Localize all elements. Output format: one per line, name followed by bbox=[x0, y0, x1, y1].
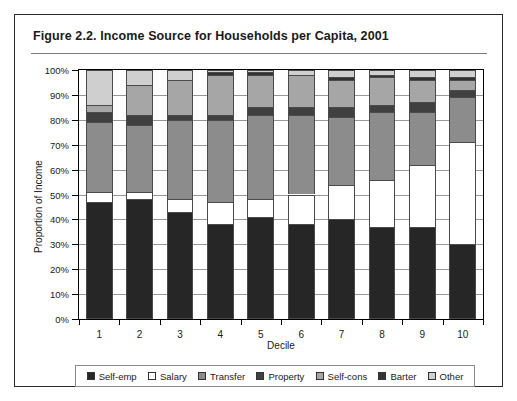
y-tick-label: 60% bbox=[50, 164, 69, 175]
bar-segment bbox=[247, 70, 274, 72]
bar-stack bbox=[288, 70, 315, 319]
bar-segment bbox=[126, 85, 153, 115]
x-tick-mark bbox=[281, 320, 282, 325]
y-tick-label: 40% bbox=[50, 214, 69, 225]
bar-stack bbox=[328, 70, 355, 319]
bar-segment bbox=[449, 90, 476, 97]
bar-segment bbox=[369, 180, 396, 227]
bar-segment bbox=[369, 70, 396, 75]
x-axis: 12345678910 bbox=[78, 320, 484, 342]
legend-item-label: Property bbox=[268, 371, 304, 382]
bar-segment bbox=[449, 97, 476, 142]
bar-segment bbox=[449, 80, 476, 90]
legend-item-label: Self-cons bbox=[328, 371, 368, 382]
x-tick-label: 9 bbox=[420, 329, 426, 340]
x-tick-label: 8 bbox=[379, 329, 385, 340]
bar-segment bbox=[328, 80, 355, 107]
bar-segment bbox=[207, 70, 234, 72]
bar-segment bbox=[409, 165, 436, 227]
x-tick-mark bbox=[79, 320, 80, 325]
bar-segment bbox=[126, 115, 153, 125]
x-tick-mark bbox=[483, 320, 484, 325]
legend-item[interactable]: Property bbox=[256, 371, 304, 382]
legend-item-label: Other bbox=[440, 371, 464, 382]
legend-item-label: Self-emp bbox=[99, 371, 137, 382]
bar-segment bbox=[328, 219, 355, 319]
x-tick-mark bbox=[362, 320, 363, 325]
bar-segment bbox=[328, 117, 355, 184]
bar-segment bbox=[449, 77, 476, 79]
bar-segment bbox=[409, 77, 436, 79]
bar-segment bbox=[288, 195, 315, 225]
legend-swatch-icon bbox=[316, 372, 324, 380]
title-divider bbox=[31, 53, 487, 54]
bar-segment bbox=[126, 192, 153, 199]
x-tick-label: 3 bbox=[177, 329, 183, 340]
legend-item[interactable]: Self-cons bbox=[316, 371, 368, 382]
x-tick-label: 7 bbox=[339, 329, 345, 340]
bar-segment bbox=[409, 80, 436, 102]
legend-item-label: Transfer bbox=[210, 371, 245, 382]
legend-swatch-icon bbox=[256, 372, 264, 380]
bar-segment bbox=[288, 224, 315, 319]
bar-segment bbox=[409, 102, 436, 112]
y-axis-title: Proportion of Income bbox=[33, 122, 44, 292]
bar-segment bbox=[247, 107, 274, 114]
bar-segment bbox=[369, 112, 396, 179]
bar-stack bbox=[409, 70, 436, 319]
y-tick-label: 20% bbox=[50, 264, 69, 275]
bar-segment bbox=[369, 77, 396, 104]
legend-item[interactable]: Barter bbox=[378, 371, 416, 382]
legend-item[interactable]: Self-emp bbox=[87, 371, 137, 382]
bar-segment bbox=[86, 112, 113, 122]
x-tick-label: 1 bbox=[96, 329, 102, 340]
bar-segment bbox=[247, 217, 274, 319]
bar-segment bbox=[449, 244, 476, 319]
bar-segment bbox=[369, 75, 396, 77]
bar-segment bbox=[288, 75, 315, 107]
y-tick-label: 0% bbox=[55, 314, 69, 325]
x-tick-label: 6 bbox=[298, 329, 304, 340]
legend-swatch-icon bbox=[148, 372, 156, 380]
bar-segment bbox=[167, 115, 194, 120]
y-tick-label: 10% bbox=[50, 289, 69, 300]
bar-segment bbox=[86, 122, 113, 192]
y-axis: Proportion of Income 0%10%20%30%40%50%60… bbox=[15, 69, 78, 320]
bar-stack bbox=[369, 70, 396, 319]
bar-segment bbox=[247, 75, 274, 107]
legend-item[interactable]: Salary bbox=[148, 371, 187, 382]
bar-segment bbox=[207, 72, 234, 74]
legend-swatch-icon bbox=[378, 372, 386, 380]
bar-segment bbox=[126, 70, 153, 85]
legend-item[interactable]: Transfer bbox=[198, 371, 245, 382]
bar-stack bbox=[207, 70, 234, 319]
x-tick-label: 10 bbox=[457, 329, 468, 340]
plot-area bbox=[78, 69, 484, 320]
bar-stack bbox=[167, 70, 194, 319]
bar-segment bbox=[409, 70, 436, 77]
legend-item-label: Barter bbox=[390, 371, 416, 382]
bar-segment bbox=[167, 199, 194, 211]
x-tick-label: 5 bbox=[258, 329, 264, 340]
y-tick-label: 80% bbox=[50, 114, 69, 125]
bar-segment bbox=[369, 227, 396, 319]
bar-segment bbox=[86, 192, 113, 202]
bar-segment bbox=[449, 70, 476, 77]
x-tick-mark bbox=[119, 320, 120, 325]
bar-segment bbox=[328, 70, 355, 77]
bar-segment bbox=[328, 107, 355, 117]
bar-stack bbox=[449, 70, 476, 319]
legend-item[interactable]: Other bbox=[428, 371, 464, 382]
x-tick-mark bbox=[241, 320, 242, 325]
bar-segment bbox=[369, 105, 396, 112]
legend-swatch-icon bbox=[428, 372, 436, 380]
bar-segment bbox=[207, 115, 234, 120]
y-tick-label: 30% bbox=[50, 239, 69, 250]
x-tick-mark bbox=[321, 320, 322, 325]
bar-segment bbox=[86, 202, 113, 319]
x-tick-label: 4 bbox=[218, 329, 224, 340]
bar-stack bbox=[86, 70, 113, 319]
x-tick-mark bbox=[402, 320, 403, 325]
x-tick-mark bbox=[200, 320, 201, 325]
figure-card: Figure 2.2. Income Source for Households… bbox=[14, 14, 503, 387]
